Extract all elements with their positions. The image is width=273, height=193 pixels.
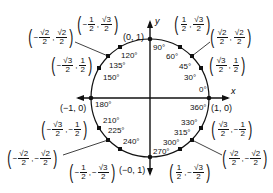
angle-label: 45° xyxy=(179,63,191,71)
coord-315: (√22,−√22) xyxy=(221,148,269,168)
angle-label: 210° xyxy=(103,117,120,125)
angle-label: 90° xyxy=(153,44,165,52)
angle-label: 225° xyxy=(108,127,125,135)
angle-label: 120° xyxy=(121,52,138,60)
angle-label: 180° xyxy=(95,101,112,109)
coordinate-label: (0, 1) xyxy=(123,33,144,42)
coordinate-label: (1, 0) xyxy=(211,104,232,113)
coord-330: (√32,−12) xyxy=(210,119,254,139)
coord-210: (−√32,−12) xyxy=(40,119,88,139)
angle-label: 240° xyxy=(123,138,140,146)
coord-30: (√32,12) xyxy=(208,55,247,75)
x-axis-right-arrow xyxy=(222,95,230,101)
coord-225: (−√22,−√22) xyxy=(6,148,59,168)
angle-label: 315° xyxy=(174,129,191,137)
angle-label: 60° xyxy=(166,53,178,61)
y-axis-label: y xyxy=(154,16,160,26)
coord-240: (−12,−√32) xyxy=(68,162,116,182)
coord-150: (−√32,12) xyxy=(50,55,94,75)
coord-120: (−12,√32) xyxy=(76,14,120,34)
coordinate-label: (−0, 1) xyxy=(119,166,145,175)
x-axis-label: x xyxy=(230,86,236,96)
coord-60: (12,√32) xyxy=(173,14,212,34)
coord-45: (√22,√22) xyxy=(209,27,252,47)
angle-label: 135° xyxy=(109,62,126,70)
angle-label: 0° xyxy=(199,86,207,94)
x-axis-left-arrow xyxy=(76,95,84,101)
coordinate-label: (−1, 0) xyxy=(60,104,86,113)
angle-label: 300° xyxy=(163,139,180,147)
y-axis-up-arrow xyxy=(147,20,153,28)
coord-135: (−√22,√22) xyxy=(27,27,75,47)
angle-label: 360° xyxy=(190,104,207,112)
angle-label: 270° xyxy=(153,148,170,156)
y-axis-down-arrow xyxy=(147,168,153,176)
coord-300: (12,−√32) xyxy=(168,162,212,182)
angle-label: 30° xyxy=(184,74,196,82)
angle-label: 150° xyxy=(103,74,120,82)
angle-label: 330° xyxy=(181,119,198,127)
